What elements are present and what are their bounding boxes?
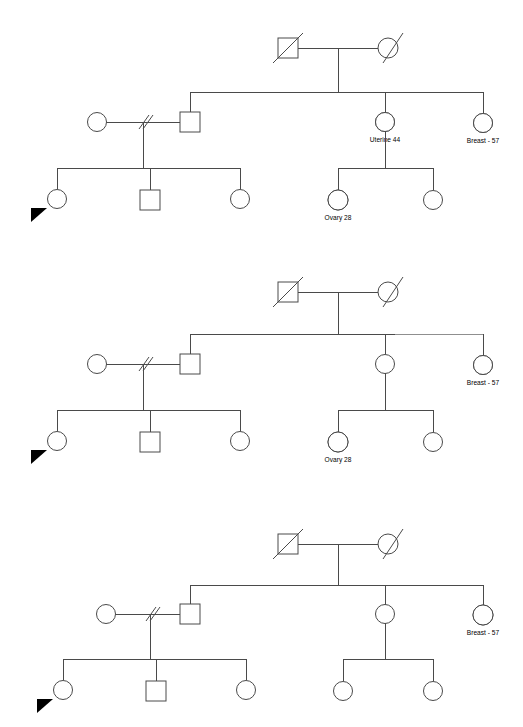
- symbol-grandchild-male[interactable]: [140, 190, 160, 210]
- symbol-grandchild-proband-female-3[interactable]: [54, 681, 73, 700]
- proband-arrow-icon-2: [31, 450, 47, 464]
- symbol-grandchild-proband-female[interactable]: [48, 190, 67, 209]
- pedigree-panel-2: Breast - 57 Ovary 28: [31, 277, 499, 464]
- proband-arrow-icon-3: [37, 699, 53, 713]
- symbol-grandchild-female-3b[interactable]: [237, 681, 256, 700]
- symbol-outline-daughter-breast-2: [474, 356, 493, 375]
- pedigree-canvas: Uterine 44 Breast - 57 Ovary 28: [0, 0, 523, 727]
- symbol-son-male[interactable]: [180, 112, 200, 132]
- symbol-grandchild-female-2[interactable]: [424, 191, 443, 210]
- symbol-grandchild-female-3c[interactable]: [334, 682, 353, 701]
- symbol-son-partner-female-3[interactable]: [97, 605, 116, 624]
- pedigree-panel-1: Uterine 44 Breast - 57 Ovary 28: [31, 33, 499, 222]
- pedigree-diagram: Uterine 44 Breast - 57 Ovary 28: [0, 0, 523, 727]
- label-grandchild-ovary-2: Ovary 28: [325, 456, 352, 464]
- label-daughter-breast-2: Breast - 57: [467, 379, 500, 386]
- symbol-son-male-3[interactable]: [180, 604, 200, 624]
- symbol-outline-daughter-breast: [474, 114, 493, 133]
- symbol-son-partner-female-2[interactable]: [88, 355, 107, 374]
- symbol-grandchild-proband-female-2[interactable]: [48, 432, 67, 451]
- symbol-son-partner-female[interactable]: [88, 113, 107, 132]
- label-grandchild-ovary: Ovary 28: [325, 214, 352, 222]
- symbol-son-male-2[interactable]: [180, 354, 200, 374]
- pedigree-panel-3: Breast - 57: [37, 529, 499, 713]
- symbol-outline-grandchild-ovary-2: [328, 432, 348, 452]
- symbol-daughter-unaffected-female-3[interactable]: [376, 605, 395, 624]
- symbol-grandchild-female-2b[interactable]: [231, 432, 250, 451]
- symbol-outline-grandchild-ovary: [328, 190, 348, 210]
- symbol-grandchild-female[interactable]: [231, 190, 250, 209]
- proband-arrow-icon: [31, 208, 47, 222]
- symbol-grandchild-male-3[interactable]: [146, 681, 166, 701]
- symbol-grandchild-male-2[interactable]: [140, 432, 160, 452]
- symbol-outline-daughter-uterine: [376, 113, 395, 132]
- symbol-grandchild-female-3d[interactable]: [424, 682, 443, 701]
- symbol-grandchild-female-2c[interactable]: [424, 433, 443, 452]
- label-daughter-breast: Breast - 57: [467, 137, 500, 144]
- label-daughter-breast-3: Breast - 57: [467, 629, 500, 636]
- symbol-outline-daughter-breast-3: [473, 605, 493, 625]
- symbol-daughter-unaffected-female-2[interactable]: [376, 355, 395, 374]
